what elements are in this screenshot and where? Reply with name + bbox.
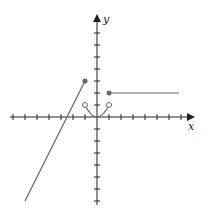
closed-dot <box>83 79 88 84</box>
open-dot <box>107 103 112 108</box>
x-axis: x <box>10 114 195 133</box>
y-axis: y <box>94 13 110 205</box>
closed-dot <box>107 91 112 96</box>
function-graph: x y <box>0 0 211 209</box>
x-axis-label: x <box>188 120 195 133</box>
open-dot <box>83 103 88 108</box>
piece-constant <box>107 91 180 96</box>
y-axis-label: y <box>102 13 110 26</box>
piece-linear <box>25 79 88 202</box>
